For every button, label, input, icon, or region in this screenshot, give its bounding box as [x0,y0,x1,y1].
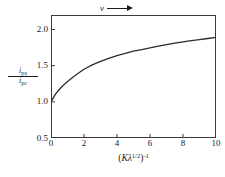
x-tick-label: 8 [173,139,193,148]
x-axis-title: (Kλ1/2)-1 [51,154,216,164]
y-tick-label: 2.0 [28,25,48,34]
y-axis-tick-marks [51,29,55,101]
plot-canvas [51,15,216,138]
x-tick-label: 10 [206,139,225,148]
scan-rate-symbol: v [100,4,104,13]
x-tick-label: 2 [74,139,94,148]
scan-rate-annotation: v [100,1,133,15]
y-axis-title-numerator: ipa [8,67,38,76]
x-axis-title-lambda-exponent: 1/2 [132,152,140,159]
x-axis-tick-labels: 0246810 [0,139,225,153]
x-tick-label: 0 [41,139,61,148]
y-axis-title: ipa ipc [8,67,38,86]
y-tick-label: 1.0 [28,97,48,106]
x-axis-tick-marks [51,134,216,138]
data-series-curve [51,37,216,101]
x-tick-label: 6 [140,139,160,148]
y-axis-title-denominator: ipc [8,76,38,86]
arrow-right-icon [107,5,133,12]
x-tick-label: 4 [107,139,127,148]
x-axis-title-outer-exponent: -1 [143,152,148,159]
chart-figure: v 0.51.01.52.0 0246810 ipa ipc (Kλ1/2)-1 [0,0,225,177]
